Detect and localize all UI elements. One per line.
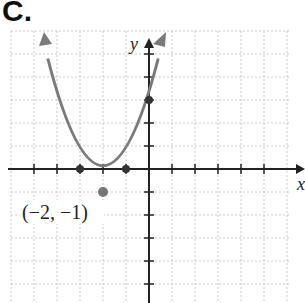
point-x-intercept-right: [122, 165, 130, 173]
y-axis-arrow-icon: [144, 38, 154, 48]
y-axis-label: y: [128, 34, 138, 54]
parabola-chart: y x (−2, −1): [0, 0, 305, 303]
right-arrow-icon: [153, 32, 166, 47]
x-axis-arrow-icon: [296, 164, 305, 174]
point-x-intercept-left: [76, 165, 84, 173]
point-y-intercept: [145, 96, 153, 104]
point-vertex: [98, 187, 108, 197]
left-arrow-icon: [39, 32, 52, 46]
vertex-annotation: (−2, −1): [22, 201, 88, 224]
x-axis-label: x: [296, 174, 305, 194]
